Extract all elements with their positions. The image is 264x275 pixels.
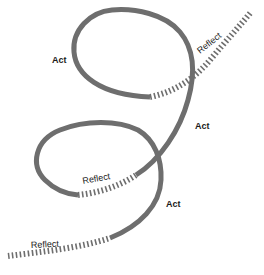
- reflect-label-bottom-left: Reflect: [31, 239, 60, 250]
- act-label-top: Act: [52, 55, 67, 65]
- act-segment-top: [74, 10, 193, 175]
- act-reflect-diagram: Act Reflect Act Reflect Act Reflect: [0, 0, 264, 275]
- diagram-svg: Act Reflect Act Reflect Act Reflect: [0, 0, 264, 275]
- act-label-middle-right: Act: [195, 121, 210, 131]
- act-label-bottom-right: Act: [166, 199, 181, 209]
- reflect-label-middle: Reflect: [82, 171, 112, 186]
